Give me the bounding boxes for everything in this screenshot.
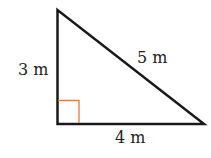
label-horizontal-side: 4 m (115, 128, 145, 147)
right-angle-marker (58, 101, 79, 124)
label-vertical-side: 3 m (18, 60, 48, 79)
triangle-diagram: 3 m 5 m 4 m (0, 0, 211, 158)
label-hypotenuse: 5 m (137, 48, 167, 67)
